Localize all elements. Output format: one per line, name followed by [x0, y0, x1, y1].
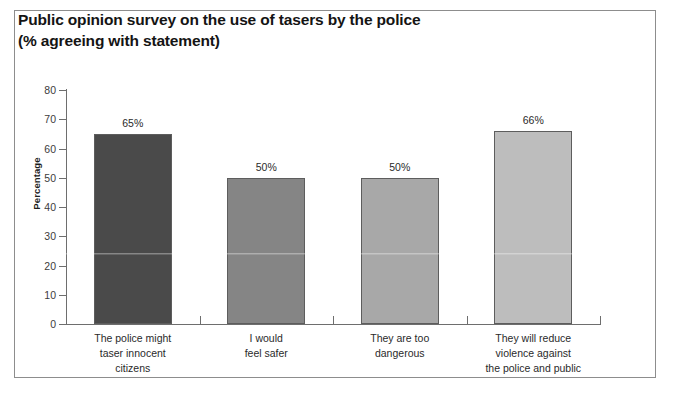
y-axis-tick-mark [59, 324, 66, 325]
y-axis-tick-mark [59, 266, 66, 267]
y-axis-tick-label: 30 [10, 230, 56, 242]
plot-area [66, 90, 600, 324]
y-axis-tick-mark [59, 149, 66, 150]
bar-value-label: 50% [256, 161, 277, 173]
y-axis-tick-label: 60 [10, 143, 56, 155]
bar-value-label: 50% [389, 161, 410, 173]
y-axis-tick-label: 80 [10, 84, 56, 96]
y-axis-tick-label: 0 [10, 318, 56, 330]
y-axis-tick-mark [59, 90, 66, 91]
bar-value-label: 66% [523, 114, 544, 126]
bar-value-label: 65% [122, 117, 143, 129]
bar[interactable] [361, 178, 439, 324]
y-axis-tick-mark [59, 178, 66, 179]
x-axis-category-label: They will reduce violence against the po… [455, 331, 613, 376]
x-axis-tick-mark [600, 316, 601, 325]
y-axis-tick-mark [59, 236, 66, 237]
y-axis-tick-label: 10 [10, 289, 56, 301]
bar[interactable] [94, 134, 172, 324]
y-axis-tick-label: 70 [10, 113, 56, 125]
y-axis-tick-label: 40 [10, 201, 56, 213]
bar[interactable] [227, 178, 305, 324]
y-axis-tick-mark [59, 295, 66, 296]
y-axis-tick-label: 20 [10, 260, 56, 272]
y-axis-tick-mark [59, 119, 66, 120]
y-axis-tick-labels: 80706050403020100 [0, 0, 56, 397]
chart-title: Public opinion survey on the use of tase… [18, 10, 618, 52]
y-axis-tick-label: 50 [10, 172, 56, 184]
y-axis-tick-mark [59, 207, 66, 208]
bar[interactable] [494, 131, 572, 324]
